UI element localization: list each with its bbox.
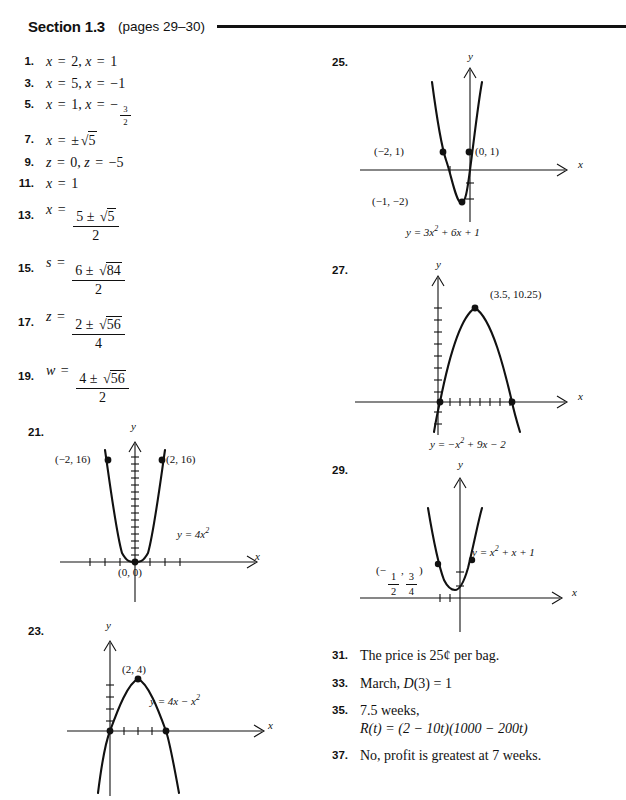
- point-dot: [105, 457, 112, 464]
- fraction: 6 ± √84 2: [72, 262, 124, 298]
- graph-number: 27.: [332, 264, 348, 276]
- answer-1: 1. x = 2, x = 1: [0, 52, 320, 71]
- fraction-numerator: 4 ± √56: [76, 370, 128, 389]
- root-dot: [437, 399, 444, 406]
- graph-25: 25. (−2, 1) (0, 1): [320, 52, 626, 260]
- answer-body: x = 1, x = −32: [34, 95, 133, 127]
- equation-base: y = 4x − x: [150, 695, 196, 707]
- equation-base: y = 3x: [406, 226, 434, 238]
- vertex-label: (2, 4): [122, 663, 146, 675]
- page-header: Section 1.3 (pages 29–30): [28, 18, 626, 35]
- equation-exponent: 2: [196, 693, 200, 702]
- answer-19: 19. w = 4 ± √56 2: [0, 361, 320, 406]
- answer-body: 7.5 weeks, R(t) = (2 − 10t)(1000 − 200t): [348, 701, 528, 737]
- answer-body: w = 4 ± √56 2: [34, 361, 131, 406]
- equation-label: y = −x2 + 9x − 2: [430, 436, 506, 450]
- equation-base: y = x: [472, 546, 495, 558]
- answer-line-1: 7.5 weeks,: [360, 702, 528, 720]
- x-axis-label: x: [268, 719, 273, 731]
- answer-35: 35. 7.5 weeks, R(t) = (2 − 10t)(1000 − 2…: [320, 701, 626, 737]
- equals: =: [59, 363, 71, 378]
- answer-body: The price is 25¢ per bag.: [348, 646, 499, 665]
- answer-number: 11.: [0, 174, 34, 189]
- answer-body: z = 0, z = −5: [34, 153, 124, 172]
- parabola-curve: [432, 82, 482, 203]
- numerator-lead: 6: [75, 263, 82, 278]
- equation-label: y = x2 + x + 1: [472, 544, 535, 558]
- root-dot: [509, 399, 516, 406]
- vertex-x-fraction: 12: [388, 571, 399, 598]
- parabola-curve: [434, 308, 520, 432]
- point-label-left: (−2, 1): [374, 145, 404, 157]
- answer-number: 5.: [0, 95, 34, 110]
- answer-body: x = ±√5: [34, 130, 97, 150]
- answer-15: 15. s = 6 ± √84 2: [0, 253, 320, 298]
- vertex-dot: [135, 676, 142, 683]
- answer-body: x = 1: [34, 174, 78, 193]
- left-column: 1. x = 2, x = 1 3. x = 5, x = −1: [0, 52, 320, 762]
- root-dot: [163, 728, 170, 735]
- answer-11: 11. x = 1: [0, 174, 320, 193]
- plus-minus-sign: ±: [86, 317, 94, 332]
- answer-number: 37.: [320, 746, 348, 761]
- answer-number: 35.: [320, 701, 348, 716]
- right-column: 25. (−2, 1) (0, 1): [320, 52, 626, 762]
- radicand: 84: [106, 262, 122, 279]
- equals: =: [56, 54, 68, 69]
- answer-body: x = 5 ± √5 2: [34, 200, 121, 245]
- x-axis-label: x: [572, 586, 577, 598]
- vertex-label: (−1, −2): [372, 195, 408, 207]
- fraction: 32: [120, 104, 130, 127]
- variable: x: [46, 54, 52, 69]
- equals: =: [55, 309, 67, 324]
- point-label-left: (−2, 16): [55, 453, 91, 465]
- fraction-numerator: 3: [406, 571, 417, 585]
- vertex-label: (3.5, 10.25): [490, 288, 541, 300]
- comma: ,: [78, 97, 82, 112]
- answer-5: 5. x = 1, x = −32: [0, 95, 320, 127]
- radical: √5: [98, 208, 116, 225]
- graph-23-svg: [62, 621, 292, 800]
- fraction-denominator: 2: [388, 585, 399, 598]
- plus-minus-sign: ±: [86, 263, 94, 278]
- variable-2: x: [85, 97, 91, 112]
- y-axis-label: y: [468, 50, 473, 62]
- comma: ,: [78, 76, 82, 91]
- section-pages: (pages 29–30): [118, 19, 205, 34]
- answer-number: 15.: [0, 253, 34, 274]
- equals: =: [55, 255, 67, 270]
- answer-number: 13.: [0, 200, 34, 221]
- vertex-x-sign: −: [380, 564, 386, 576]
- point-dot: [435, 561, 441, 567]
- equation-tail: + 6x + 1: [438, 226, 480, 238]
- graph-27: 27.: [320, 260, 626, 460]
- equals-2: =: [95, 54, 107, 69]
- answer-body: z = 2 ± √56 4: [34, 307, 127, 352]
- equation-tail: + 9x − 2: [464, 438, 506, 450]
- answer-13: 13. x = 5 ± √5 2: [0, 200, 320, 245]
- radical: √84: [97, 262, 122, 279]
- fraction: 5 ± √5 2: [73, 208, 118, 244]
- y-axis-label: y: [106, 619, 111, 631]
- graph-number: 23.: [28, 625, 44, 637]
- equals: =: [56, 176, 68, 191]
- fraction-numerator: 6 ± √84: [72, 262, 124, 281]
- function-value: = 1: [430, 676, 452, 691]
- vertex-label: (−12,34): [376, 564, 423, 598]
- graph-29: 29. y = x2 + x + 1: [320, 460, 626, 638]
- radicand: 5: [88, 131, 97, 150]
- y-axis-label: y: [458, 458, 463, 470]
- variable: x: [46, 76, 52, 91]
- fraction-denominator: 2: [120, 116, 130, 127]
- graph-number: 29.: [332, 464, 348, 476]
- answer-17: 17. z = 2 ± √56 4: [0, 307, 320, 352]
- comma: ,: [78, 54, 82, 69]
- radical: √5: [79, 131, 97, 150]
- point-dot: [132, 559, 139, 566]
- answer-31: 31. The price is 25¢ per bag.: [320, 646, 626, 665]
- graph-number: 21.: [28, 426, 44, 438]
- graph-number: 25.: [332, 56, 348, 68]
- radical: √56: [101, 370, 126, 387]
- fraction-numerator: 3: [120, 104, 130, 116]
